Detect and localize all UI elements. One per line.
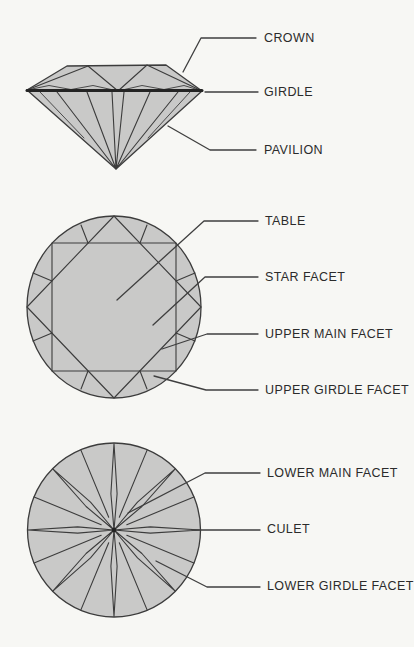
pavilion-view-figure (28, 443, 261, 617)
label-culet: CULET (267, 522, 310, 537)
diamond-diagram-canvas (0, 0, 414, 647)
culet-dot (112, 528, 117, 533)
label-upper-main-facet: UPPER MAIN FACET (265, 327, 393, 342)
crown-leader-line (183, 38, 256, 72)
label-pavilion: PAVILION (264, 143, 323, 158)
diagram-page: CROWN GIRDLE PAVILION TABLE STAR FACET U… (0, 0, 414, 647)
label-table: TABLE (265, 214, 306, 229)
label-lower-girdle-facet: LOWER GIRDLE FACET (267, 579, 414, 594)
crown-view-figure (27, 216, 258, 398)
label-girdle: GIRDLE (264, 85, 313, 100)
label-star-facet: STAR FACET (265, 270, 345, 285)
upper-girdle-facet-leader-line (154, 376, 258, 390)
side-view-pavilion-shape (27, 90, 202, 169)
side-view-figure (27, 38, 258, 169)
label-crown: CROWN (264, 31, 315, 46)
pavilion-leader-line (168, 126, 256, 150)
label-lower-main-facet: LOWER MAIN FACET (267, 466, 398, 481)
label-upper-girdle-facet: UPPER GIRDLE FACET (265, 383, 409, 398)
